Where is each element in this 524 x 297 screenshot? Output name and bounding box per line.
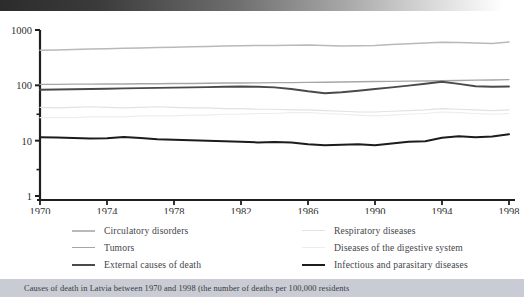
x-axis-tick-label: 1974	[97, 206, 119, 214]
series-line-diseases-of-the-digestive-system	[40, 112, 509, 118]
legend-swatch-line-icon	[72, 230, 95, 232]
y-axis-tick-label: 1000	[11, 25, 32, 36]
legend-item-label: Respiratory diseases	[334, 226, 416, 236]
x-axis-tick-label: 1986	[298, 206, 319, 214]
line-chart: 1000100101197019741978198219861990199419…	[0, 14, 524, 214]
legend-item: Respiratory diseases	[302, 222, 468, 239]
legend-item-label: Diseases of the digestive system	[334, 243, 463, 253]
chart-plot-area: 1000100101197019741978198219861990199419…	[0, 14, 524, 214]
caption-bar: Causes of death in Latvia between 1970 a…	[0, 279, 524, 297]
legend-item-label: Circulatory disorders	[104, 226, 188, 236]
legend-column-left: Circulatory disordersTumorsExternal caus…	[72, 222, 201, 273]
chart-legend: Circulatory disordersTumorsExternal caus…	[0, 222, 524, 274]
x-axis-tick-label: 1990	[365, 206, 386, 214]
legend-swatch-line-icon	[302, 230, 325, 231]
x-axis-tick-label: 1982	[231, 206, 252, 214]
x-axis-tick-label: 1970	[30, 206, 51, 214]
series-line-circulatory-disorders	[40, 42, 509, 50]
legend-swatch-line-icon	[72, 247, 95, 248]
legend-swatch-line-icon	[302, 264, 325, 266]
legend-swatch-line-icon	[72, 264, 95, 266]
legend-item-label: Tumors	[104, 243, 134, 253]
series-line-respiratory-diseases	[40, 107, 509, 112]
y-axis-tick-label: 10	[22, 136, 33, 147]
x-axis-tick-label: 1998	[499, 206, 520, 214]
header-gradient-band	[0, 0, 524, 11]
figure-root: 1000100101197019741978198219861990199419…	[0, 0, 524, 297]
caption-text: Causes of death in Latvia between 1970 a…	[0, 284, 349, 293]
x-axis-tick-label: 1978	[164, 206, 185, 214]
legend-item: Infectious and parasitary diseases	[302, 256, 468, 273]
y-axis-tick-label: 1	[27, 191, 32, 202]
legend-item: Tumors	[72, 239, 201, 256]
legend-column-right: Respiratory diseasesDiseases of the dige…	[302, 222, 468, 273]
series-line-infectious-and-parasitary-diseases	[40, 134, 509, 145]
legend-swatch-line-icon	[302, 247, 325, 248]
legend-item: Circulatory disorders	[72, 222, 201, 239]
legend-item: External causes of death	[72, 256, 201, 273]
legend-item-label: External causes of death	[104, 260, 201, 270]
y-axis-tick-label: 100	[16, 80, 32, 91]
legend-item-label: Infectious and parasitary diseases	[334, 260, 468, 270]
legend-item: Diseases of the digestive system	[302, 239, 468, 256]
x-axis-tick-label: 1994	[432, 206, 454, 214]
